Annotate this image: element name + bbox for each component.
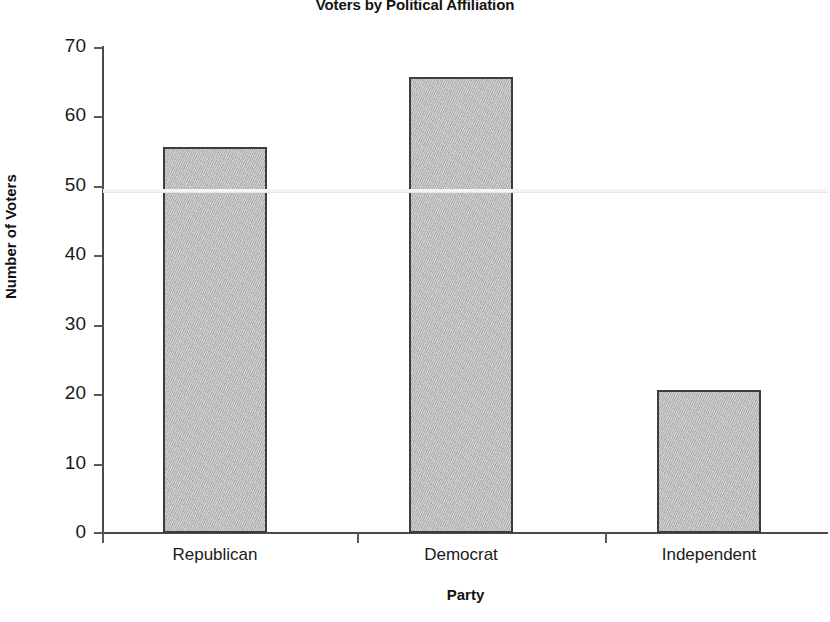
y-tick-label-70: 70 <box>0 35 86 57</box>
y-tick-label-50: 50 <box>0 174 86 196</box>
y-tick-label-0: 0 <box>0 521 86 543</box>
x-axis-title: Party <box>103 586 828 603</box>
y-tick-20 <box>94 394 103 396</box>
bar-republican <box>163 147 267 533</box>
x-tick-boundary-0 <box>102 533 104 543</box>
y-tick-label-30: 30 <box>0 313 86 335</box>
y-tick-40 <box>94 255 103 257</box>
y-axis-title: Number of Voters <box>2 281 19 299</box>
y-tick-label-60: 60 <box>0 104 86 126</box>
bar-independent <box>657 390 761 533</box>
chart-figure: Voters by Political Affiliation Number o… <box>0 0 830 622</box>
y-tick-50 <box>94 186 103 188</box>
x-tick-label-independent: Independent <box>629 545 789 565</box>
x-tick-boundary-2 <box>605 533 607 543</box>
y-tick-30 <box>94 325 103 327</box>
bar-democrat <box>409 77 513 533</box>
y-tick-label-40: 40 <box>0 243 86 265</box>
y-tick-10 <box>94 464 103 466</box>
y-tick-70 <box>94 47 103 49</box>
y-tick-label-20: 20 <box>0 382 86 404</box>
y-tick-label-10: 10 <box>0 452 86 474</box>
x-tick-boundary-1 <box>357 533 359 543</box>
x-tick-label-republican: Republican <box>135 545 295 565</box>
y-axis-line <box>102 46 104 534</box>
chart-title: Voters by Political Affiliation <box>0 0 830 13</box>
y-tick-60 <box>94 116 103 118</box>
x-tick-label-democrat: Democrat <box>381 545 541 565</box>
